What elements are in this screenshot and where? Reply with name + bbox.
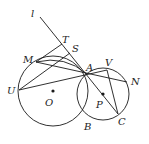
label-p: P (95, 99, 103, 110)
label-l: l (31, 8, 34, 19)
diagram-svg: l T S M A V N U O P B C (0, 0, 149, 144)
label-v: V (105, 57, 114, 68)
label-a: A (85, 62, 93, 73)
label-o: O (45, 97, 53, 108)
label-b: B (83, 121, 91, 132)
center-o-dot (51, 89, 54, 92)
label-n: N (130, 76, 141, 87)
geometry-diagram: l T S M A V N U O P B C (0, 0, 149, 144)
label-c: C (118, 116, 126, 127)
label-s: S (72, 43, 79, 54)
label-u: U (7, 85, 16, 96)
label-t: T (62, 34, 70, 45)
segment-mt (36, 44, 62, 62)
label-m: M (22, 54, 34, 65)
center-p-dot (101, 92, 104, 95)
